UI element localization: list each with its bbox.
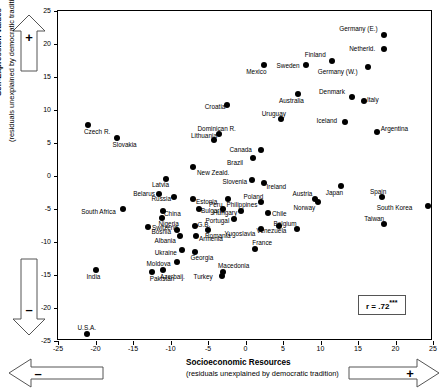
data-point-label: China [164, 211, 181, 217]
data-point [365, 64, 371, 70]
data-point-label: Albania [155, 238, 176, 244]
data-point [381, 32, 387, 38]
data-point-label: Uruguay [262, 111, 286, 117]
y-tick-mark [54, 176, 58, 177]
data-point [145, 224, 151, 230]
data-point [381, 46, 387, 52]
data-point [249, 177, 255, 183]
data-point [231, 216, 237, 222]
y-tick-mark [54, 44, 58, 45]
x-axis-minus-arrow: – [8, 358, 104, 388]
x-tick-label: -25 [45, 345, 71, 352]
data-point-label: Australia [279, 98, 304, 104]
data-point-label: Ireland [267, 184, 287, 190]
x-axis-title: Socioeconomic Resources [186, 358, 291, 367]
data-point-label: Mexico [246, 69, 266, 75]
x-axis-subtitle: (residuals unexplained by democratic tra… [186, 369, 339, 378]
correlation-annotation: r = .72*** [358, 295, 406, 315]
scatter-plot-figure: + – Self-Expression Values (residuals un… [0, 0, 441, 389]
y-tick-mark [54, 77, 58, 78]
data-point-label: Czech R. [84, 129, 110, 135]
x-tick-label: -5 [195, 345, 221, 352]
data-point-label: Lithuania [191, 133, 217, 139]
data-point-label: Italy [367, 97, 379, 103]
data-point [374, 129, 380, 135]
y-tick-mark [54, 308, 58, 309]
data-point-label: Canada [230, 147, 252, 153]
data-point [265, 210, 271, 216]
y-tick-label: 5 [25, 139, 51, 146]
svg-text:–: – [34, 366, 41, 381]
y-tick-label: 15 [25, 73, 51, 80]
data-point-label: Finland [305, 52, 326, 58]
data-point-label: Slovakia [113, 142, 137, 148]
data-point-label: South Africa [81, 209, 115, 215]
data-point-label: Germany (W.) [318, 69, 358, 75]
data-point-label: U.S.A. [78, 325, 96, 331]
data-point [329, 58, 335, 64]
data-point [84, 331, 90, 337]
data-point-label: Norway [294, 205, 316, 211]
data-point-label: Slovenia [223, 179, 248, 185]
y-tick-mark [54, 275, 58, 276]
plot-area: 2520151050-5-10-15-20-25 -25-20-15-10-50… [57, 10, 432, 340]
data-point-label: Brazil [227, 160, 243, 166]
y-tick-label: 0 [25, 172, 51, 179]
significance-stars: *** [389, 299, 397, 306]
data-point [238, 208, 244, 214]
data-point-label: Austria [293, 191, 313, 197]
x-tick-label: 25 [420, 345, 441, 352]
data-point-label: Netherld. [349, 46, 375, 52]
y-tick-mark [54, 209, 58, 210]
y-tick-label: -25 [25, 337, 51, 344]
data-point [258, 147, 264, 153]
x-tick-label: 20 [383, 345, 409, 352]
data-point [295, 91, 301, 97]
data-point-label: Dominican R. [198, 126, 236, 132]
data-point-label: Denmark [319, 89, 345, 95]
data-point [177, 233, 183, 239]
data-point-label: Germany (E.) [339, 26, 377, 32]
data-point-label: Argentina [381, 126, 408, 132]
x-tick-label: -15 [120, 345, 146, 352]
data-point [179, 247, 185, 253]
y-tick-label: 25 [25, 7, 51, 14]
data-point [85, 122, 91, 128]
data-point-label: Russia [152, 196, 172, 202]
x-tick-label: -10 [158, 345, 184, 352]
y-tick-mark [54, 143, 58, 144]
data-point-label: Croatia [205, 104, 226, 110]
data-point [425, 203, 431, 209]
data-point-label: Taiwan [364, 216, 384, 222]
x-tick-label: 5 [270, 345, 296, 352]
data-point [349, 94, 355, 100]
data-point-label: France [252, 240, 272, 246]
data-point [219, 273, 225, 279]
x-tick-label: 0 [233, 345, 259, 352]
data-point [114, 135, 120, 141]
data-point-label: Turkey [194, 274, 213, 280]
data-point-label: Chile [272, 211, 287, 217]
data-point-label: Sweden [277, 63, 300, 69]
y-axis-subtitle: (residuals unexplained by democratic tra… [7, 0, 16, 142]
y-tick-mark [54, 11, 58, 12]
data-point-label: South Korea [377, 205, 413, 211]
y-tick-mark [54, 242, 58, 243]
data-point [252, 246, 258, 252]
y-tick-label: 10 [25, 106, 51, 113]
y-axis-minus-arrow: – [12, 258, 46, 336]
x-axis-plus-arrow: + [348, 358, 440, 388]
data-point-label: Bulgaria [201, 208, 224, 214]
data-point-label: Ukraine [155, 250, 177, 256]
data-point-label: Switzerld. [152, 225, 180, 231]
y-tick-label: -10 [25, 238, 51, 245]
x-tick-label: 15 [345, 345, 371, 352]
data-point [171, 194, 177, 200]
data-point [342, 119, 348, 125]
y-tick-label: 20 [25, 40, 51, 47]
y-axis-title: Self-Expression Values [0, 8, 3, 96]
y-tick-label: -20 [25, 304, 51, 311]
data-point-label: Estonia [196, 199, 217, 205]
data-point-label: Latvia [152, 182, 169, 188]
y-tick-label: -15 [25, 271, 51, 278]
